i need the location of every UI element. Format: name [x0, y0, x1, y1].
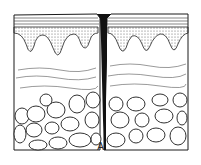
figure-label: A: [0, 141, 201, 152]
